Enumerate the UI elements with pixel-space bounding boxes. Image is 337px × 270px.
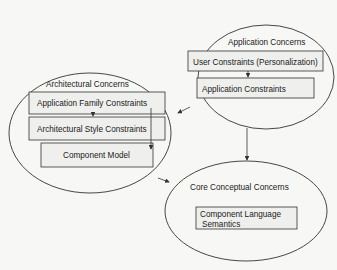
- architectural-style-constraints-label: Architectural Style Constraints: [37, 125, 147, 134]
- application-concerns-title: Application Concerns: [228, 38, 305, 47]
- core-conceptual-concerns-node: Core Conceptual Concerns Component Langu…: [165, 161, 327, 261]
- diagram-svg: Application Concerns User Constraints (P…: [0, 0, 337, 270]
- application-constraints-label: Application Constraints: [202, 85, 286, 94]
- architectural-concerns-title: Architectural Concerns: [46, 80, 129, 89]
- component-language-semantics-line1: Component Language: [200, 210, 281, 219]
- arrow-architectural-to-core: [158, 178, 169, 182]
- user-constraints-label: User Constraints (Personalization): [193, 58, 318, 67]
- application-concerns-node: Application Concerns User Constraints (P…: [188, 25, 334, 129]
- architectural-concerns-node: Architectural Concerns Application Famil…: [9, 73, 171, 193]
- arrow-application-to-architectural: [178, 107, 190, 113]
- core-conceptual-concerns-title: Core Conceptual Concerns: [190, 183, 289, 192]
- component-model-label: Component Model: [63, 151, 130, 160]
- diagram-canvas: Application Concerns User Constraints (P…: [0, 0, 337, 270]
- application-family-constraints-label: Application Family Constraints: [37, 99, 147, 108]
- component-language-semantics-line2: Semantics: [202, 220, 240, 229]
